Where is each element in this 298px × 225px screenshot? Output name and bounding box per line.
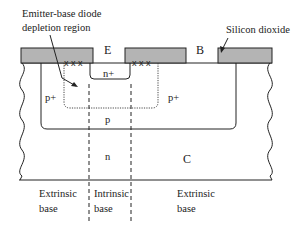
depletion-label-line2: depletion region [22, 22, 91, 33]
intrinsic-base-doping-label: p [105, 114, 110, 125]
intrinsic-base-label-line2: base [94, 203, 113, 214]
depletion-arrowhead-icon [71, 82, 78, 87]
emitter-doping-label: n+ [103, 68, 114, 79]
extrinsic-base-left-label-line2: base [39, 203, 58, 214]
emitter-terminal-label: E [104, 43, 111, 57]
depletion-label-line1: Emitter-base diode [22, 8, 102, 19]
left-wavy-edge [20, 63, 25, 180]
extrinsic-base-left-label-line1: Extrinsic [39, 188, 77, 199]
base-terminal-label: B [196, 43, 204, 57]
oxide-label: Silicon dioxide [226, 24, 290, 35]
intrinsic-base-label-line1: Intrinsic [94, 188, 129, 199]
right-wavy-edge [268, 63, 273, 180]
extrinsic-base-right-doping-label: p+ [168, 92, 179, 103]
base-well-outline [41, 63, 236, 129]
defect-markers-right: x x x [132, 58, 151, 68]
extrinsic-base-right-label-line2: base [177, 203, 196, 214]
collector-doping-label: n [105, 151, 111, 162]
transistor-cross-section-diagram: x x x x x x E B C n+ p+ p+ p n Emitter-b… [0, 0, 298, 225]
extrinsic-base-right-label-line1: Extrinsic [177, 188, 215, 199]
defect-markers-left: x x x [64, 58, 83, 68]
extrinsic-base-left-doping-label: p+ [45, 92, 56, 103]
oxide-block-right [218, 48, 272, 63]
collector-terminal-label: C [183, 152, 191, 166]
